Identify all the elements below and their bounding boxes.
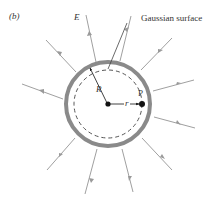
panel-label: (b) xyxy=(9,12,20,21)
radius-label-R: R xyxy=(96,85,102,94)
gaussian-surface-label: Gaussian surface xyxy=(141,14,202,23)
center-point xyxy=(105,101,110,106)
point-label-P: P xyxy=(138,89,143,98)
point-P xyxy=(139,101,145,107)
distance-label-r: r xyxy=(124,99,130,108)
field-label-E: E xyxy=(74,13,80,22)
gauss-diagram xyxy=(0,0,222,203)
